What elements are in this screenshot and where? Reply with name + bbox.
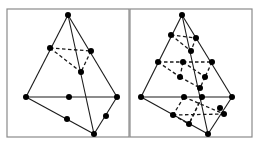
quadratic-tetrahedron-panel (7, 9, 129, 137)
node-point (221, 111, 227, 117)
dashed-edge (183, 62, 205, 77)
node-point (209, 59, 215, 65)
node-point (205, 131, 211, 137)
node-point (64, 116, 70, 122)
node-point (23, 94, 29, 100)
node-point (217, 105, 223, 111)
dashed-edge (173, 114, 224, 115)
solid-edge (26, 97, 94, 134)
dashed-edge (173, 97, 184, 115)
node-point (138, 94, 144, 100)
node-point (181, 94, 187, 100)
node-point (88, 48, 94, 54)
solid-edge (68, 15, 117, 97)
node-point (155, 59, 161, 65)
solid-edge (182, 15, 232, 97)
solid-edge (208, 97, 232, 134)
node-point (91, 131, 97, 137)
panel-frame (130, 9, 252, 137)
node-point (114, 94, 120, 100)
node-point (179, 12, 185, 18)
node-point (103, 113, 109, 119)
dashed-edge (81, 51, 91, 72)
node-point (78, 69, 84, 75)
node-point (188, 48, 194, 54)
node-point (199, 94, 205, 100)
tetrahedra-diagram (0, 0, 259, 143)
solid-edge (141, 15, 182, 97)
node-point (186, 121, 192, 127)
solid-edge (26, 15, 68, 97)
node-point (47, 45, 53, 51)
node-point (170, 112, 176, 118)
dashed-edge (184, 97, 224, 114)
node-point (180, 59, 186, 65)
node-point (177, 74, 183, 80)
node-point (229, 94, 235, 100)
dashed-edge (171, 35, 196, 38)
dashed-edge (189, 97, 202, 124)
dashed-edge (158, 62, 180, 77)
node-point (66, 94, 72, 100)
dashed-edge (50, 48, 91, 51)
node-point (202, 74, 208, 80)
node-point (65, 12, 71, 18)
node-point (168, 32, 174, 38)
cubic-tetrahedron-panel (130, 9, 252, 137)
node-point (193, 35, 199, 41)
node-point (197, 85, 203, 91)
